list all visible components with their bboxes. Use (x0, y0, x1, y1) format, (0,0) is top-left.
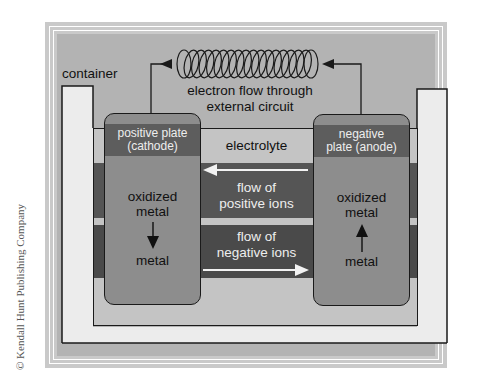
cathode-metal-text: metal (105, 204, 200, 219)
copyright-credit: © Kendall Hunt Publishing Company (14, 204, 26, 370)
anode-title-line2: plate (anode) (314, 141, 409, 154)
negative-ion-flow-label: flow of negative ions (200, 229, 313, 261)
cathode-oxidized-text: oxidized (105, 189, 200, 204)
anode-plate: negative plate (anode) oxidized metal me… (313, 114, 410, 306)
anode-oxidized-metal: oxidized metal (314, 190, 409, 220)
anode-oxidized-text: oxidized (314, 190, 409, 205)
anode-title: negative plate (anode) (314, 125, 409, 157)
container-label: container (62, 66, 118, 82)
cathode-title: positive plate (cathode) (105, 124, 200, 156)
electron-arrow-right-icon (322, 59, 334, 69)
positive-flow-line2: positive ions (200, 196, 313, 212)
electron-flow-line2: external circuit (180, 99, 320, 115)
positive-flow-line1: flow of (200, 180, 313, 196)
anode-metal-text: metal (314, 205, 409, 220)
positive-ion-flow-label: flow of positive ions (200, 180, 313, 212)
electrolyte-label: electrolyte (200, 138, 313, 154)
positive-ion-arrow-icon (203, 164, 217, 176)
negative-flow-line1: flow of (200, 229, 313, 245)
electron-flow-label: electron flow through external circuit (180, 83, 320, 115)
cathode-metal-label: metal (105, 253, 200, 268)
electron-flow-line1: electron flow through (180, 83, 320, 99)
cathode-oxidized-metal: oxidized metal (105, 189, 200, 219)
electron-arrow-left-icon (160, 59, 172, 69)
negative-flow-line2: negative ions (200, 245, 313, 261)
arrow-down-icon (145, 222, 161, 250)
arrow-up-icon (354, 223, 370, 253)
negative-ion-arrow-icon (295, 264, 309, 276)
cathode-plate: positive plate (cathode) oxidized metal … (104, 113, 201, 305)
cathode-title-line2: (cathode) (105, 140, 200, 153)
coil-icon (177, 49, 318, 79)
anode-metal-label: metal (314, 254, 409, 269)
